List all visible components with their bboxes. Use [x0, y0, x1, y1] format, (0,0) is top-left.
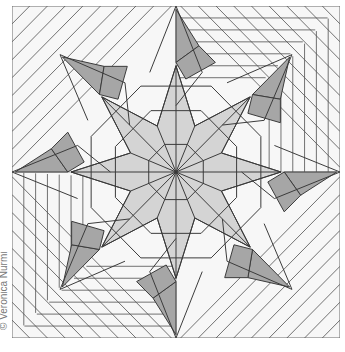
copyright-credit: © Veronica Nurmi: [0, 251, 9, 330]
crease-pattern: [12, 6, 340, 338]
